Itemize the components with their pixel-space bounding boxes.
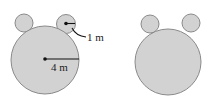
- left-ear-circle: [141, 15, 159, 33]
- head-circle: [135, 29, 201, 95]
- diagram-canvas: 1 m 4 m: [0, 0, 215, 106]
- large-radius-label: 4 m: [51, 61, 68, 73]
- small-radius-label: 1 m: [87, 31, 104, 43]
- labeled-figure: 1 m 4 m: [11, 14, 104, 94]
- right-ear-circle: [182, 14, 200, 32]
- unlabeled-figure: [135, 14, 201, 95]
